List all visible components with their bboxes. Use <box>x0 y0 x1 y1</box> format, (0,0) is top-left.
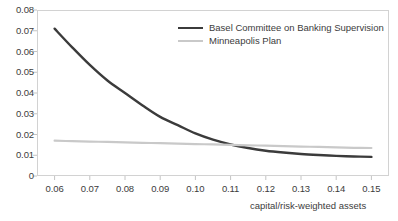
chart-legend: Basel Committee on Banking Supervision M… <box>178 21 384 47</box>
y-tick-label: 0 <box>1 171 34 181</box>
x-tick-label: 0.07 <box>70 184 110 194</box>
x-tick-label: 0.14 <box>316 184 356 194</box>
x-tick-label: 0.06 <box>35 184 75 194</box>
x-axis-title: capital/risk-weighted assets <box>250 200 366 211</box>
y-axis-tick-labels: 00.010.020.030.040.050.060.070.08 <box>0 0 34 221</box>
x-tick-label: 0.11 <box>211 184 251 194</box>
y-tick-label: 0.08 <box>1 5 34 15</box>
x-tick-label: 0.09 <box>140 184 180 194</box>
y-tick-label: 0.01 <box>1 150 34 160</box>
legend-line-swatch-icon <box>178 27 203 29</box>
y-tick-label: 0.02 <box>1 130 34 140</box>
x-tick-label: 0.15 <box>351 184 391 194</box>
x-tick-label: 0.13 <box>281 184 321 194</box>
legend-item-basel: Basel Committee on Banking Supervision <box>178 21 384 34</box>
legend-line-swatch-icon <box>178 40 203 42</box>
y-tick-label: 0.06 <box>1 47 34 57</box>
x-tick-label: 0.08 <box>105 184 145 194</box>
legend-item-minneapolis: Minneapolis Plan <box>178 34 384 47</box>
y-tick-label: 0.03 <box>1 109 34 119</box>
legend-label-basel: Basel Committee on Banking Supervision <box>209 21 384 34</box>
x-tick-label: 0.12 <box>246 184 286 194</box>
y-tick-label: 0.07 <box>1 26 34 36</box>
x-tick-label: 0.10 <box>175 184 215 194</box>
legend-label-minneapolis: Minneapolis Plan <box>209 34 281 47</box>
chart-container: 00.010.020.030.040.050.060.070.08 0.060.… <box>0 0 398 221</box>
y-tick-label: 0.04 <box>1 88 34 98</box>
y-tick-label: 0.05 <box>1 67 34 77</box>
